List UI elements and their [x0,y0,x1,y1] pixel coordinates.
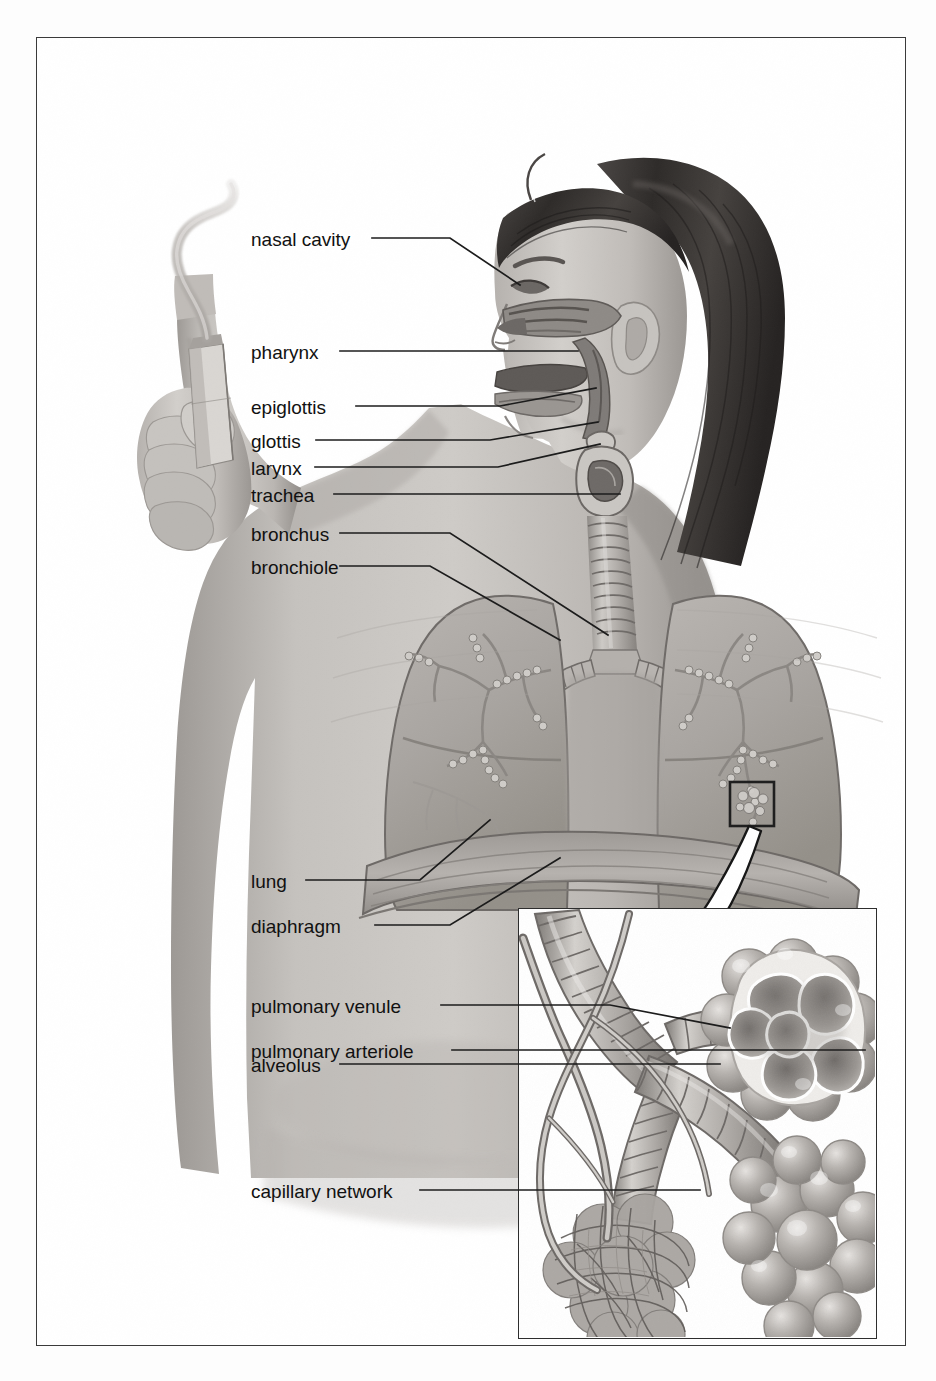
label-glottis: glottis [251,432,301,451]
label-diaphragm: diaphragm [251,917,341,936]
label-larynx: larynx [251,459,302,478]
alveoli-detail-inset-frame [518,908,877,1339]
label-alveolus: alveolus [251,1056,321,1075]
label-epiglottis: epiglottis [251,398,326,417]
page-background: The Respiratory System [0,0,936,1381]
label-trachea: trachea [251,486,314,505]
label-nasal-cavity: nasal cavity [251,230,350,249]
label-pharynx: pharynx [251,343,319,362]
label-bronchus: bronchus [251,525,329,544]
label-capillary-network: capillary network [251,1182,393,1201]
label-pulmonary-venule: pulmonary venule [251,997,401,1016]
label-lung: lung [251,872,287,891]
label-bronchiole: bronchiole [251,558,339,577]
